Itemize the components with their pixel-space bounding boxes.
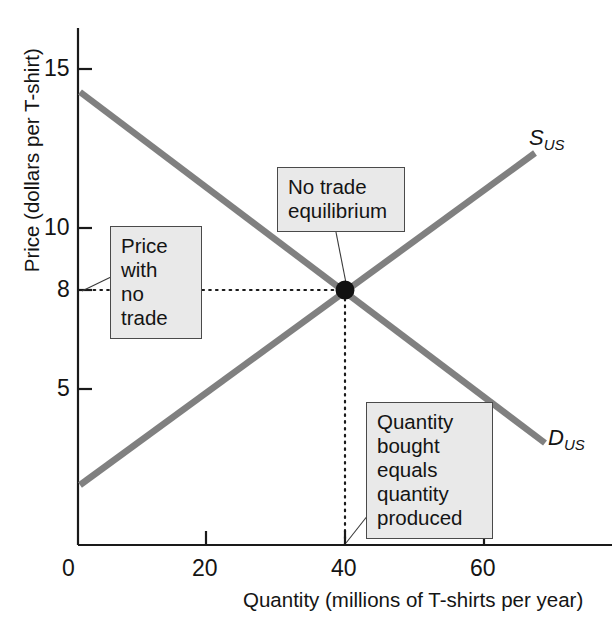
demand-curve-label-subscript: US: [564, 436, 585, 453]
supply-curve-label: SUS: [529, 127, 565, 152]
x-tick-label-0: 0: [62, 557, 75, 580]
y-tick-label-5: 5: [57, 377, 70, 400]
callout-quantity-bought-equals-produced: Quantity bought equals quantity produced: [366, 402, 493, 539]
leader-price-no-trade: [82, 276, 113, 291]
y-tick-label-10: 10: [44, 216, 70, 239]
supply-curve-label-subscript: US: [544, 136, 565, 153]
y-axis-title: Price (dollars per T-shirt): [22, 45, 43, 275]
x-tick-label-40: 40: [331, 557, 357, 580]
demand-curve-label-letter: D: [548, 425, 564, 450]
x-tick-label-60: 60: [470, 557, 496, 580]
demand-curve-label: DUS: [548, 427, 585, 452]
plot-canvas: [0, 0, 612, 624]
y-tick-label-15: 15: [44, 57, 70, 80]
callout-no-trade-equilibrium: No trade equilibrium: [277, 167, 405, 232]
x-axis-title: Quantity (millions of T-shirts per year): [243, 590, 583, 611]
x-tick-label-20: 20: [192, 557, 218, 580]
y-tick-label-8: 8: [57, 278, 70, 301]
economics-chart-figure: 15 10 8 5 0 20 40 60 Price (dollars per …: [0, 0, 612, 624]
callout-price-with-no-trade: Price with no trade: [110, 226, 202, 339]
equilibrium-dot: [336, 281, 355, 300]
supply-curve-label-letter: S: [529, 125, 544, 150]
